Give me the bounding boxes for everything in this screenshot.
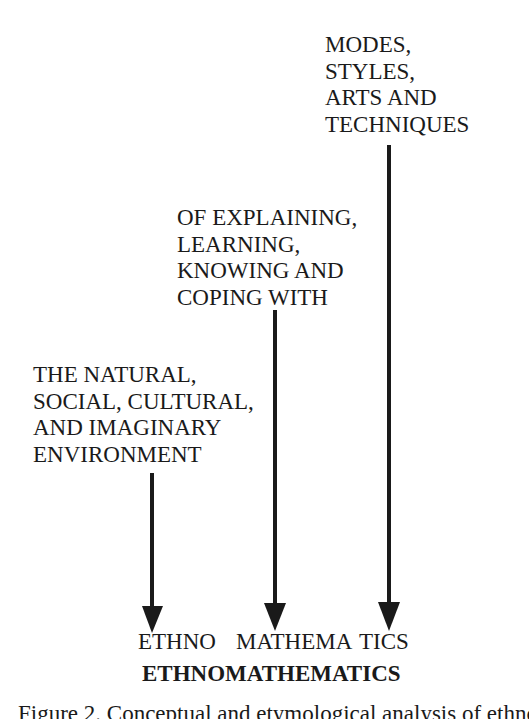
root-tics: TICS bbox=[359, 628, 409, 656]
arrowhead-icon bbox=[378, 602, 400, 631]
arrows-layer bbox=[0, 0, 529, 719]
figure-caption: Figure 2. Conceptual and etymological an… bbox=[18, 700, 529, 719]
arrow-explaining-to-mathema bbox=[264, 310, 286, 631]
root-mathema: MATHEMA bbox=[236, 628, 352, 656]
arrow-modes-to-tics bbox=[378, 145, 400, 631]
arrow-environment-to-ethno bbox=[142, 473, 163, 633]
arrowhead-icon bbox=[264, 603, 286, 631]
root-ethno: ETHNO bbox=[138, 628, 216, 656]
combined-term: ETHNOMATHEMATICS bbox=[142, 660, 401, 688]
